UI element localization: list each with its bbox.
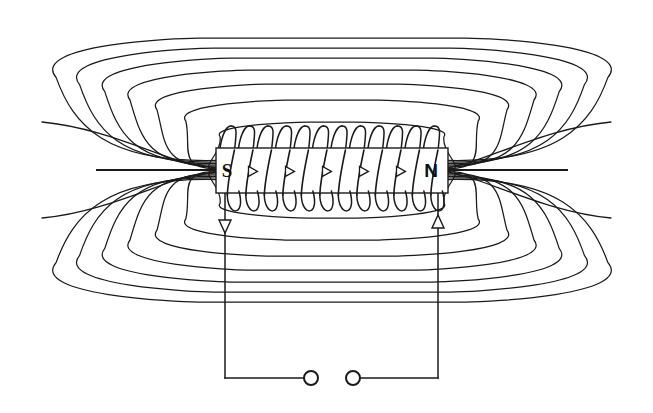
pole-label-north: N xyxy=(424,160,438,181)
pole-label-south: S xyxy=(222,160,233,181)
terminal-left[interactable] xyxy=(304,371,318,385)
solenoid-field-diagram: S N xyxy=(0,0,653,413)
terminal-right[interactable] xyxy=(346,371,360,385)
diagram-canvas: S N xyxy=(0,0,653,413)
